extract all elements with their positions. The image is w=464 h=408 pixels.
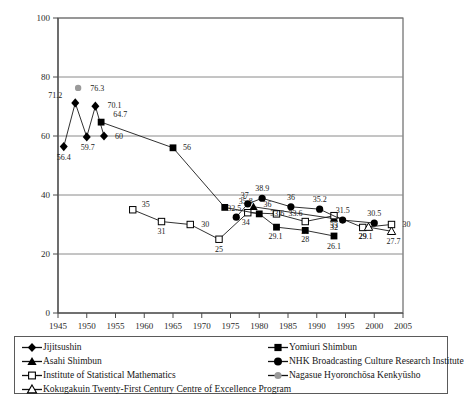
data-point [83,132,91,141]
data-point [245,210,251,216]
data-point [71,98,79,107]
legend-marker-cell [21,383,43,396]
data-point-label: 35.2 [313,195,327,204]
xtick-label-1965: 1965 [164,321,183,330]
legend-item-label: NHK Broadcasting Culture Research Instit… [289,355,464,368]
legend-marker [29,372,36,379]
data-point-label: 33.6 [270,209,284,218]
xtick-label-1960: 1960 [135,321,154,330]
data-point [100,131,108,140]
data-point [98,119,105,126]
chart-plot-area: 0204060801001945195019551960196519701975… [0,0,463,330]
legend-marker-cell [267,341,289,354]
legend-item-nagasue-hyoronch-sa-kenky-sho[interactable]: Nagasue Hyoronchōsa Kenkyūsho [267,369,457,382]
data-point [170,144,177,151]
data-point [302,218,308,224]
xtick-label-1970: 1970 [193,321,212,330]
ytick-label-0: 0 [46,308,51,318]
data-point-label: 71.2 [48,91,62,100]
data-point [244,200,251,207]
series-nagasue-hyoronch-sa-kenky-sho: 76.3 [75,84,104,93]
data-point [216,236,222,242]
data-point-label: 30 [403,220,411,229]
data-point [339,216,346,223]
xtick-label-2005: 2005 [394,321,413,330]
legend-item-label: Jijitsushin [43,341,82,354]
data-point [60,142,68,151]
xtick-label-2000: 2000 [365,321,384,330]
legend-item-yomiuri-shimbun[interactable]: Yomiuri Shimbun [267,341,457,354]
legend-marker-cell [267,355,289,368]
data-point-label: 60 [115,132,123,141]
data-point [316,206,323,213]
line-chart: 0204060801001945195019551960196519701975… [0,0,463,330]
data-point-label: 56.4 [57,153,71,162]
legend-marker-cell [21,341,43,354]
data-point [233,214,240,221]
legend-marker [274,344,281,351]
filled-circle-icon [267,355,289,368]
legend-marker-cell [21,355,43,368]
xtick-label-1995: 1995 [337,321,356,330]
ytick-label-40: 40 [41,190,51,200]
legend-item-institute-of-statistical-mathematics[interactable]: Institute of Statistical Mathematics [21,369,276,382]
xtick-label-1985: 1985 [279,321,298,330]
xtick-label-1945: 1945 [49,321,68,330]
filled-square-icon [267,341,289,354]
series-yomiuri-shimbun: 64.75635.833.629.12826.1 [98,110,341,251]
data-point-label: 64.7 [113,110,127,119]
data-point [259,195,266,202]
data-point-label: 36 [264,200,272,209]
legend-marker-cell [267,369,289,382]
data-point-label: 31.5 [336,206,350,215]
legend-item-asahi-shimbun[interactable]: Asahi Shimbun [21,355,276,368]
xtick-label-1980: 1980 [250,321,269,330]
data-point [75,85,81,91]
series-line [101,122,334,236]
legend-item-jijitsushin[interactable]: Jijitsushin [21,341,276,354]
legend-item-label: Asahi Shimbun [43,355,102,368]
data-point [91,102,99,111]
data-point-label: 56 [183,143,191,152]
legend-marker [274,358,282,366]
xtick-label-1990: 1990 [308,321,327,330]
ytick-label-60: 60 [41,131,51,141]
data-point [158,218,164,224]
data-point [187,221,193,227]
data-point [331,233,338,240]
data-point [371,219,378,226]
data-point-label: 38.9 [255,184,269,193]
legend-item-kokugakuin-twenty-first-century-centre-of-excellence-program[interactable]: Kokugakuin Twenty-First Century Centre o… [21,383,276,396]
ytick-label-100: 100 [37,13,51,23]
xtick-label-1975: 1975 [222,321,241,330]
legend-item-label: Nagasue Hyoronchōsa Kenkyūsho [289,369,420,382]
data-point-label: 29.1 [359,232,373,241]
data-point-label: 34 [242,218,250,227]
data-point [287,203,294,210]
ytick-label-20: 20 [41,249,51,259]
data-point [130,207,136,213]
legend-item-nhk-broadcasting-culture-research-institute[interactable]: NHK Broadcasting Culture Research Instit… [267,355,457,368]
plot-border [58,18,403,313]
filled-diamond-icon [21,341,43,354]
gray-circle-icon [267,369,289,382]
chart-legend: JijitsushinAsahi ShimbunInstitute of Sta… [14,336,448,394]
data-point-label: 26.1 [327,242,341,251]
filled-triangle-icon [21,355,43,368]
legend-column-left: JijitsushinAsahi ShimbunInstitute of Sta… [21,341,276,397]
data-point-label: 30.5 [367,209,381,218]
data-point-label: 28 [301,235,309,244]
data-point-label: 29.1 [269,232,283,241]
data-point-label: 76.3 [90,84,104,93]
open-triangle-icon [21,383,43,396]
xtick-label-1955: 1955 [107,321,126,330]
legend-item-label: Institute of Statistical Mathematics [43,369,176,382]
data-point-label: 25 [215,245,223,254]
legend-column-right: Yomiuri ShimbunNHK Broadcasting Culture … [267,341,457,383]
data-point-label: 31 [158,227,166,236]
data-point-label: 37 [241,191,249,200]
data-point-label: 36 [287,193,295,202]
xtick-label-1950: 1950 [78,321,97,330]
legend-item-label: Kokugakuin Twenty-First Century Centre o… [43,383,291,396]
